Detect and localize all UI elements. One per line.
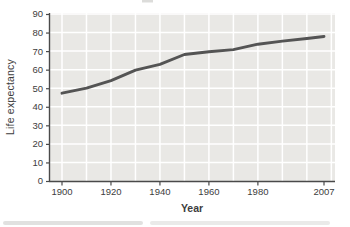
y-tick-label: 0 xyxy=(38,175,43,186)
y-tick-label: 10 xyxy=(32,157,43,168)
x-tick-label: 1960 xyxy=(198,186,219,197)
cropped-caption-artifact xyxy=(150,221,330,225)
y-tick-label: 50 xyxy=(32,83,43,94)
x-tick-label: 2007 xyxy=(313,186,334,197)
y-tick-label: 30 xyxy=(32,120,43,131)
y-axis-title: Life expectancy xyxy=(4,59,16,135)
x-tick-label: 1940 xyxy=(149,186,170,197)
x-tick-label: 1980 xyxy=(247,186,268,197)
x-tick-label: 1900 xyxy=(51,186,72,197)
x-tick-label: 1920 xyxy=(100,186,121,197)
y-tick-label: 40 xyxy=(32,101,43,112)
life-expectancy-line-chart: 0102030405060708090190019201940196019802… xyxy=(0,0,350,227)
y-tick-label: 90 xyxy=(32,8,43,19)
x-axis-title: Year xyxy=(181,202,203,214)
cropped-content-artifact-top xyxy=(142,0,153,3)
y-tick-label: 20 xyxy=(32,138,43,149)
cropped-caption-artifact xyxy=(3,221,143,225)
y-tick-label: 60 xyxy=(32,64,43,75)
y-tick-label: 70 xyxy=(32,46,43,57)
plot-area xyxy=(49,13,335,181)
chart-canvas: 0102030405060708090190019201940196019802… xyxy=(0,0,350,227)
y-tick-label: 80 xyxy=(32,27,43,38)
